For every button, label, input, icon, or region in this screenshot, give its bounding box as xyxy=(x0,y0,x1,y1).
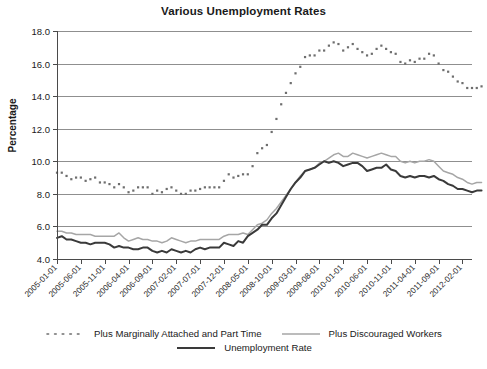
data-point-marker xyxy=(337,43,339,45)
data-point-marker xyxy=(323,49,325,51)
data-point-marker xyxy=(480,85,482,87)
data-point-marker xyxy=(423,58,425,60)
data-point-marker xyxy=(328,45,330,47)
series-line xyxy=(57,161,482,252)
data-point-marker xyxy=(442,69,444,71)
data-point-marker xyxy=(414,61,416,63)
data-point-marker xyxy=(85,180,87,182)
data-point-marker xyxy=(395,53,397,55)
data-point-marker xyxy=(399,61,401,63)
data-point-marker xyxy=(290,82,292,84)
data-point-marker xyxy=(199,188,201,190)
data-point-marker xyxy=(471,87,473,89)
y-tick-label: 6.0 xyxy=(37,221,50,232)
data-point-marker xyxy=(80,176,82,178)
data-point-marker xyxy=(352,43,354,45)
data-point-marker xyxy=(347,46,349,48)
data-point-marker xyxy=(127,191,129,193)
legend-entry-discouraged: Plus Discouraged Workers xyxy=(280,328,442,339)
data-point-marker xyxy=(304,56,306,58)
plot-area: 18.016.014.012.010.08.06.04.0 2005-01-01… xyxy=(0,0,487,330)
data-point-marker xyxy=(333,41,335,43)
legend-entry-unemployment-rate: Unemployment Rate xyxy=(175,342,311,353)
data-point-marker xyxy=(342,49,344,51)
data-point-marker xyxy=(447,71,449,73)
data-point-marker xyxy=(142,186,144,188)
data-point-marker xyxy=(94,176,96,178)
legend-row-2: Unemployment Rate xyxy=(0,342,487,353)
data-point-marker xyxy=(271,131,273,133)
data-point-marker xyxy=(247,173,249,175)
legend-label-marginally-attached: Plus Marginally Attached and Part Time xyxy=(94,328,261,339)
data-point-marker xyxy=(151,193,153,195)
chart-container: Various Unemployment Rates Percentage 18… xyxy=(0,0,487,369)
data-point-marker xyxy=(404,62,406,64)
data-point-marker xyxy=(209,186,211,188)
series-line xyxy=(57,153,482,243)
data-point-marker xyxy=(132,190,134,192)
data-point-marker xyxy=(457,80,459,82)
y-tick-label: 8.0 xyxy=(37,189,50,200)
data-point-marker xyxy=(213,186,215,188)
data-series xyxy=(56,41,483,252)
data-point-marker xyxy=(113,186,115,188)
data-point-marker xyxy=(428,53,430,55)
data-point-marker xyxy=(65,175,67,177)
data-point-marker xyxy=(180,193,182,195)
data-point-marker xyxy=(361,51,363,53)
data-point-marker xyxy=(385,48,387,50)
data-point-marker xyxy=(285,92,287,94)
data-point-marker xyxy=(185,193,187,195)
y-tick-label: 10.0 xyxy=(32,156,51,167)
data-point-marker xyxy=(108,183,110,185)
data-point-marker xyxy=(318,49,320,51)
data-point-marker xyxy=(433,54,435,56)
data-point-marker xyxy=(147,186,149,188)
data-point-marker xyxy=(313,54,315,56)
data-point-marker xyxy=(366,54,368,56)
data-point-marker xyxy=(170,186,172,188)
data-point-marker xyxy=(418,58,420,60)
data-point-marker xyxy=(189,190,191,192)
data-point-marker xyxy=(218,186,220,188)
data-point-marker xyxy=(438,62,440,64)
data-point-marker xyxy=(204,186,206,188)
data-point-marker xyxy=(70,178,72,180)
y-tick-labels: 18.016.014.012.010.08.06.04.0 xyxy=(32,26,51,265)
data-point-marker xyxy=(61,172,63,174)
legend-dark-line-icon xyxy=(175,343,217,353)
y-tick-label: 12.0 xyxy=(32,124,51,135)
data-point-marker xyxy=(299,66,301,68)
legend-row-1: Plus Marginally Attached and Part Time P… xyxy=(0,328,487,339)
x-tick-labels: 2005-01-012005-06-012005-11-012006-04-01… xyxy=(23,263,464,299)
data-point-marker xyxy=(194,190,196,192)
data-point-marker xyxy=(175,190,177,192)
data-point-marker xyxy=(104,181,106,183)
legend-gray-line-icon xyxy=(280,329,322,339)
data-point-marker xyxy=(75,176,77,178)
data-point-marker xyxy=(275,118,277,120)
y-tick-label: 18.0 xyxy=(32,26,51,37)
y-tick-label: 16.0 xyxy=(32,59,51,70)
data-point-marker xyxy=(371,53,373,55)
data-point-marker xyxy=(461,82,463,84)
data-point-marker xyxy=(390,51,392,53)
legend-label-discouraged: Plus Discouraged Workers xyxy=(329,328,442,339)
y-tick-label: 14.0 xyxy=(32,91,51,102)
y-tick-label: 4.0 xyxy=(37,254,50,265)
chart-legend: Plus Marginally Attached and Part Time P… xyxy=(0,328,487,356)
data-point-marker xyxy=(89,178,91,180)
data-point-marker xyxy=(223,180,225,182)
data-point-marker xyxy=(380,45,382,47)
legend-dotted-line-icon xyxy=(45,329,87,339)
data-point-marker xyxy=(228,173,230,175)
data-point-marker xyxy=(409,59,411,61)
legend-entry-marginally-attached: Plus Marginally Attached and Part Time xyxy=(45,328,261,339)
data-point-marker xyxy=(476,87,478,89)
data-point-marker xyxy=(251,165,253,167)
data-point-marker xyxy=(242,173,244,175)
data-point-marker xyxy=(123,186,125,188)
data-point-marker xyxy=(309,54,311,56)
data-point-marker xyxy=(376,48,378,50)
data-point-marker xyxy=(156,190,158,192)
